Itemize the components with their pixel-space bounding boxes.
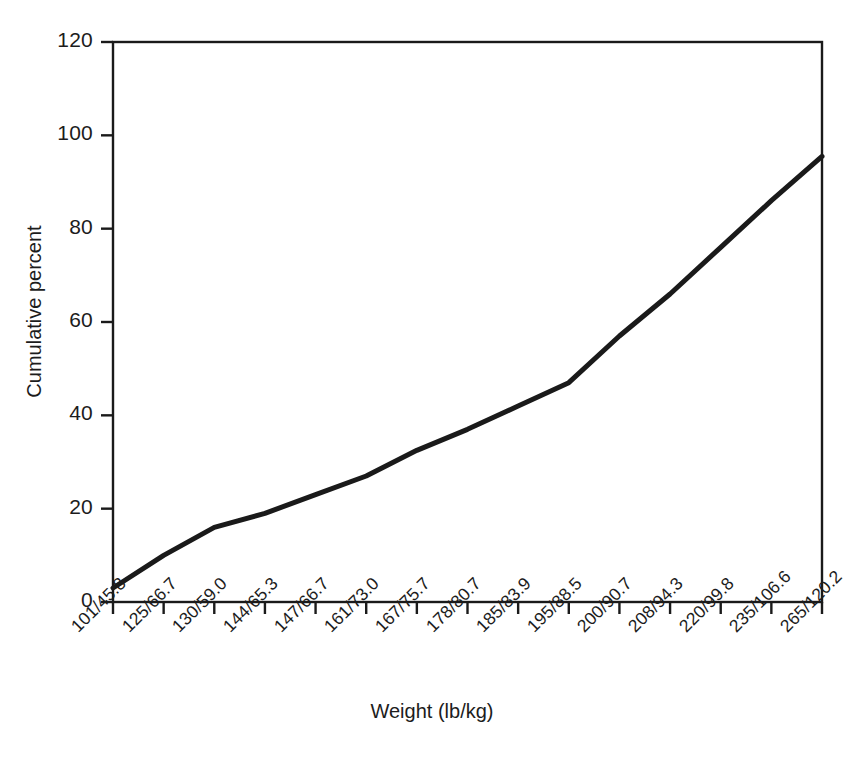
data-series-line bbox=[113, 156, 822, 588]
y-tick-label: 40 bbox=[0, 401, 93, 425]
plot-frame bbox=[113, 42, 822, 602]
plot-canvas bbox=[0, 0, 864, 775]
chart-figure: Cumulative percent 020406080100120 101/4… bbox=[0, 0, 864, 775]
y-tick-label: 80 bbox=[0, 215, 93, 239]
y-tick-label: 120 bbox=[0, 28, 93, 52]
series-polyline bbox=[113, 156, 822, 588]
y-tick-label: 100 bbox=[0, 121, 93, 145]
y-tick-label: 60 bbox=[0, 308, 93, 332]
y-axis-ticks bbox=[101, 42, 113, 602]
y-tick-label: 20 bbox=[0, 495, 93, 519]
x-axis-title: Weight (lb/kg) bbox=[0, 700, 864, 723]
